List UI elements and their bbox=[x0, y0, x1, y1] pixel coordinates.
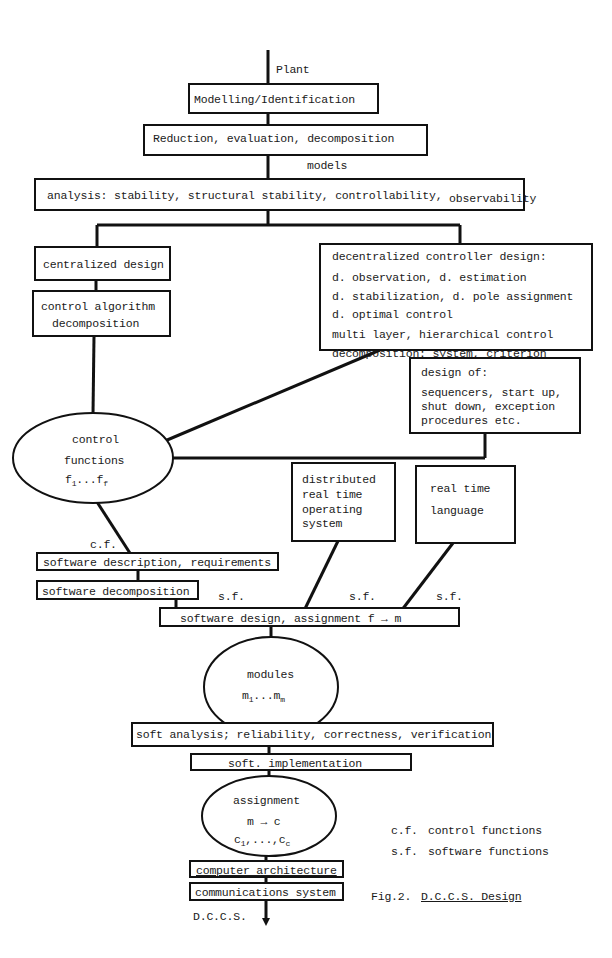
soft-implementation-box: soft. implementation bbox=[190, 753, 412, 771]
rtos-line-3: operating bbox=[302, 504, 362, 516]
rtos-line-2: real time bbox=[302, 489, 362, 501]
software-description-box: software description, requirements bbox=[36, 552, 279, 571]
software-description-label: software description, requirements bbox=[43, 557, 271, 569]
assignment-mapping: m → c bbox=[247, 816, 281, 828]
modules-label: modules bbox=[247, 669, 294, 681]
control-functions-line-1: control bbox=[72, 434, 119, 446]
modelling-identification-label: Modelling/Identification bbox=[194, 94, 355, 106]
control-algorithm-label: control algorithm bbox=[41, 301, 155, 313]
rt-language-line-1: real time bbox=[430, 483, 490, 495]
design-of-box: design of: sequencers, start up, shut do… bbox=[409, 357, 581, 434]
communications-system-label: communications system bbox=[195, 887, 336, 899]
design-of-line-2: shut down, exception bbox=[421, 401, 555, 413]
analysis-box: analysis: stability, structural stabilit… bbox=[34, 178, 525, 211]
range-start: m bbox=[242, 689, 249, 702]
control-algorithm-decomposition-box: control algorithm decomposition bbox=[32, 290, 171, 337]
caption-title: D.C.C.S. Design bbox=[421, 891, 522, 903]
modules-range: m1...mm bbox=[242, 690, 285, 704]
distributed-rtos-box: distributed real time operating system bbox=[291, 462, 396, 542]
rtos-line-1: distributed bbox=[302, 474, 376, 486]
decentralized-controller-design-box: decentralized controller design: d. obse… bbox=[319, 243, 593, 351]
decentralized-line-1: d. observation, d. estimation bbox=[332, 272, 526, 284]
range-dots: ... bbox=[253, 689, 273, 702]
decentralized-line-3: d. optimal control bbox=[332, 309, 453, 321]
range-end-sub: m bbox=[280, 695, 285, 704]
dccs-output-label: D.C.C.S. bbox=[193, 911, 247, 923]
soft-implementation-label: soft. implementation bbox=[228, 758, 362, 770]
assignment-label: assignment bbox=[233, 795, 300, 807]
design-of-line-3: procedures etc. bbox=[421, 415, 522, 427]
edge-label-sf-2: s.f. bbox=[349, 591, 376, 603]
software-decomposition-label: software decomposition bbox=[42, 586, 189, 598]
design-of-line-1: sequencers, start up, bbox=[421, 387, 562, 399]
soft-analysis-box: soft analysis; reliability, correctness,… bbox=[131, 722, 494, 747]
decentralized-line-2: d. stabilization, d. pole assignment bbox=[332, 291, 573, 303]
legend-meaning-cf: control functions bbox=[428, 825, 542, 837]
communications-system-box: communications system bbox=[189, 882, 344, 901]
edge-label-sf-3: s.f. bbox=[436, 591, 463, 603]
analysis-label-tail: observability bbox=[449, 192, 536, 205]
software-design-box: software design, assignment f → m bbox=[159, 607, 460, 627]
centralized-design-label: centralized design bbox=[43, 259, 164, 271]
software-decomposition-box: software decomposition bbox=[36, 580, 199, 600]
control-functions-line-2: functions bbox=[64, 455, 124, 467]
range-end: c bbox=[279, 833, 286, 846]
legend-abbr-cf: c.f. bbox=[391, 825, 418, 837]
decomposition-label: decomposition bbox=[52, 318, 139, 330]
rtos-line-4: system bbox=[302, 518, 342, 530]
centralized-design-box: centralized design bbox=[34, 246, 171, 281]
computer-architecture-label: computer architecture bbox=[196, 865, 337, 877]
control-functions-range: f1...ff bbox=[65, 474, 108, 488]
plant-input-label: Plant bbox=[276, 64, 310, 76]
range-end-sub: f bbox=[103, 479, 108, 488]
range-dots: ,..., bbox=[245, 833, 279, 846]
range-end-sub: c bbox=[286, 839, 291, 848]
edge-label-cf: c.f. bbox=[90, 539, 117, 551]
analysis-label-main: analysis: stability, structural stabilit… bbox=[47, 189, 442, 202]
output-arrow-icon bbox=[262, 918, 270, 926]
reduction-evaluation-box: Reduction, evaluation, decomposition bbox=[143, 124, 428, 156]
rt-language-line-2: language bbox=[430, 505, 484, 517]
caption-prefix: Fig.2. bbox=[371, 891, 411, 903]
modelling-identification-box: Modelling/Identification bbox=[188, 83, 379, 114]
decentralized-line-4: multi layer, hierarchical control bbox=[332, 329, 553, 341]
legend-abbr-sf: s.f. bbox=[391, 846, 418, 858]
range-dots: ... bbox=[76, 473, 96, 486]
real-time-language-box: real time language bbox=[415, 465, 516, 544]
range-start: f bbox=[65, 473, 72, 486]
legend-meaning-sf: software functions bbox=[428, 846, 549, 858]
reduction-evaluation-label: Reduction, evaluation, decomposition bbox=[153, 133, 394, 145]
assignment-range: c1,...,cc bbox=[234, 834, 290, 848]
soft-analysis-label: soft analysis; reliability, correctness,… bbox=[136, 729, 491, 741]
range-start: c bbox=[234, 833, 241, 846]
edge-label-sf-1: s.f. bbox=[218, 591, 245, 603]
software-design-label: software design, assignment f → m bbox=[180, 613, 401, 625]
edge-label-models-2: models bbox=[307, 160, 347, 172]
computer-architecture-box: computer architecture bbox=[189, 860, 344, 878]
analysis-label: analysis: stability, structural stabilit… bbox=[47, 190, 536, 202]
decentralized-title: decentralized controller design: bbox=[332, 251, 546, 263]
design-of-title: design of: bbox=[421, 367, 488, 379]
